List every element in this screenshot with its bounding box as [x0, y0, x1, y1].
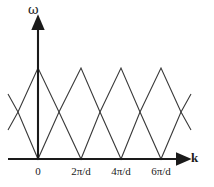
tick-label-4pi-d: 4π/d: [111, 166, 131, 177]
branch-zigzag-a: [8, 68, 191, 159]
dispersion-figure: ω k 0 2π/d 4π/d 6π/d: [0, 0, 214, 187]
tick-label-0: 0: [35, 166, 41, 177]
tick-label-6pi-d: 6π/d: [151, 166, 171, 177]
dispersion-plot: [0, 0, 214, 187]
dispersion-branches: [8, 68, 191, 159]
omega-axis-label: ω: [28, 3, 39, 16]
tick-label-2pi-d: 2π/d: [71, 166, 91, 177]
k-axis-label: k: [191, 151, 198, 164]
